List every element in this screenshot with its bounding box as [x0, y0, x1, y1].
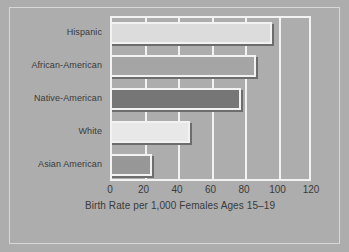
category-label-native-american: Native-American — [0, 93, 102, 103]
x-tick-label: 80 — [238, 184, 249, 195]
category-label-hispanic: Hispanic — [0, 27, 102, 37]
category-label-white: White — [0, 126, 102, 136]
x-axis-title: Birth Rate per 1,000 Females Ages 15–19 — [30, 200, 330, 211]
category-label-asian-american: Asian American — [0, 159, 102, 169]
bar-row — [110, 22, 311, 44]
bar-asian-american — [110, 154, 152, 176]
x-axis-tick-labels: 020406080100120 — [110, 184, 311, 198]
x-tick-label: 40 — [171, 184, 182, 195]
bar-native-american — [110, 88, 241, 110]
bar-row — [110, 88, 311, 110]
bar-row — [110, 154, 311, 176]
bar-african-american — [110, 55, 256, 77]
bar-row — [110, 121, 311, 143]
x-tick-label: 100 — [269, 184, 286, 195]
chart-figure: HispanicAfrican-AmericanNative-AmericanW… — [0, 0, 349, 252]
x-tick-label: 20 — [138, 184, 149, 195]
category-label-african-american: African-American — [0, 60, 102, 70]
bar-row — [110, 55, 311, 77]
x-tick-label: 60 — [205, 184, 216, 195]
bars-layer — [110, 16, 311, 181]
bar-white — [110, 121, 190, 143]
bar-hispanic — [110, 22, 272, 44]
x-tick-label: 120 — [303, 184, 320, 195]
x-tick-label: 0 — [107, 184, 113, 195]
category-axis-labels: HispanicAfrican-AmericanNative-AmericanW… — [0, 16, 106, 181]
